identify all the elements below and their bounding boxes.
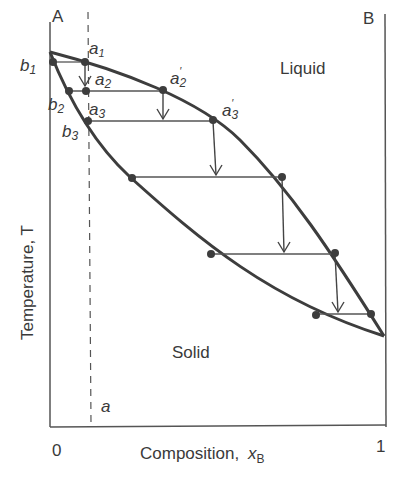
isopleth-label: a	[101, 397, 110, 416]
cooling-arrows	[79, 62, 344, 312]
liquidus-curve	[50, 52, 384, 336]
axis-x	[50, 425, 386, 427]
x-tick-1: 1	[376, 437, 385, 456]
state-points	[49, 58, 375, 319]
phase-diagram: A B Liquid Solid a1 a2 a3 a2′ a3′ b1 b2 …	[0, 0, 405, 477]
label-a2-prime: a2′	[170, 65, 186, 90]
label-a2: a2	[95, 70, 111, 91]
liquid-region-label: Liquid	[280, 59, 325, 78]
label-b2: b2	[48, 95, 64, 116]
isopleth-a	[88, 12, 91, 424]
label-a3-prime: a3′	[222, 97, 238, 122]
y-axis-label: Temperature, T	[18, 225, 37, 340]
x-axis-label: Composition, xB	[140, 444, 264, 466]
component-A-label: A	[52, 7, 64, 26]
solidus-curve	[50, 52, 384, 336]
label-b3: b3	[62, 122, 78, 143]
x-tick-0: 0	[52, 441, 61, 460]
solid-region-label: Solid	[172, 343, 210, 362]
component-B-label: B	[363, 9, 374, 28]
label-b1: b1	[20, 56, 36, 77]
label-a3: a3	[89, 100, 105, 121]
axis-B	[385, 14, 386, 427]
tie-lines	[53, 62, 371, 314]
label-a1: a1	[89, 39, 105, 59]
